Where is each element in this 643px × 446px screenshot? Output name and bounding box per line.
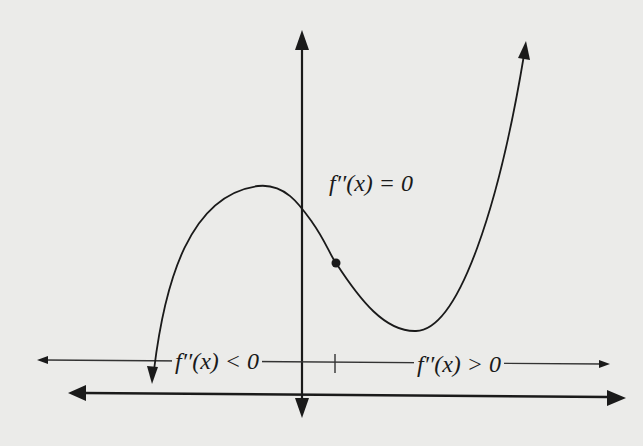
y-axis bbox=[295, 30, 309, 418]
concave-down-label-text: f′′(x) < 0 bbox=[175, 348, 259, 374]
y-axis-up-arrow-icon bbox=[295, 30, 309, 50]
concave-down-label: f′′(x) < 0 bbox=[172, 348, 262, 374]
number-line-left-arrow-icon bbox=[37, 356, 48, 364]
inflection-point-dot bbox=[332, 259, 341, 268]
curve-down-arrow-icon bbox=[147, 366, 158, 384]
sign-number-line bbox=[37, 354, 610, 373]
diagram-canvas: f′′(x) = 0 f′′(x) < 0 f′′(x) > 0 bbox=[0, 0, 643, 446]
curve-up-arrow-icon bbox=[518, 41, 530, 60]
number-line-right-arrow-icon bbox=[599, 360, 610, 368]
y-axis-down-arrow-icon bbox=[295, 398, 309, 418]
x-axis-right-arrow-icon bbox=[607, 390, 626, 406]
x-axis-left-arrow-icon bbox=[68, 385, 86, 401]
graph-svg bbox=[0, 0, 643, 446]
concave-up-label-text: f′′(x) > 0 bbox=[417, 351, 501, 377]
x-axis bbox=[68, 385, 626, 406]
inflection-label: f′′(x) = 0 bbox=[326, 170, 416, 196]
cubic-curve bbox=[147, 41, 530, 384]
inflection-label-text: f′′(x) = 0 bbox=[329, 170, 413, 196]
concave-up-label: f′′(x) > 0 bbox=[414, 351, 504, 377]
